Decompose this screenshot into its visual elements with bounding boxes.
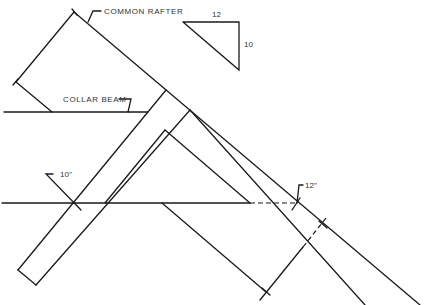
pitch-triangle — [183, 22, 239, 70]
dim-12-leader — [297, 185, 303, 203]
inner-peak-right — [165, 130, 250, 203]
dim-12-label: 12" — [305, 181, 317, 190]
strut-end — [18, 270, 36, 285]
dim-10-leader — [46, 174, 81, 210]
strut-inner-line — [36, 110, 190, 285]
strut-outer-line — [18, 90, 166, 270]
lower-parallel-line — [162, 203, 266, 292]
rafter-diagram: 12" 10" COMMON RAFTER COLLAR BEAM 12 10 — [0, 0, 424, 305]
rafter-end-cut — [16, 12, 74, 82]
common-rafter-top-line — [74, 12, 420, 305]
rafter-lower-edge — [16, 82, 52, 112]
collar-beam-label: COLLAR BEAM — [63, 95, 127, 104]
dim-10-label: 10" — [60, 170, 72, 179]
common-rafter-label: COMMON RAFTER — [104, 7, 183, 16]
pitch-rise-label: 10 — [244, 40, 253, 49]
common-rafter-leader — [88, 11, 101, 22]
rafter-inner-line — [190, 110, 365, 305]
inner-peak-left — [105, 130, 165, 203]
pitch-run-label: 12 — [212, 10, 221, 19]
